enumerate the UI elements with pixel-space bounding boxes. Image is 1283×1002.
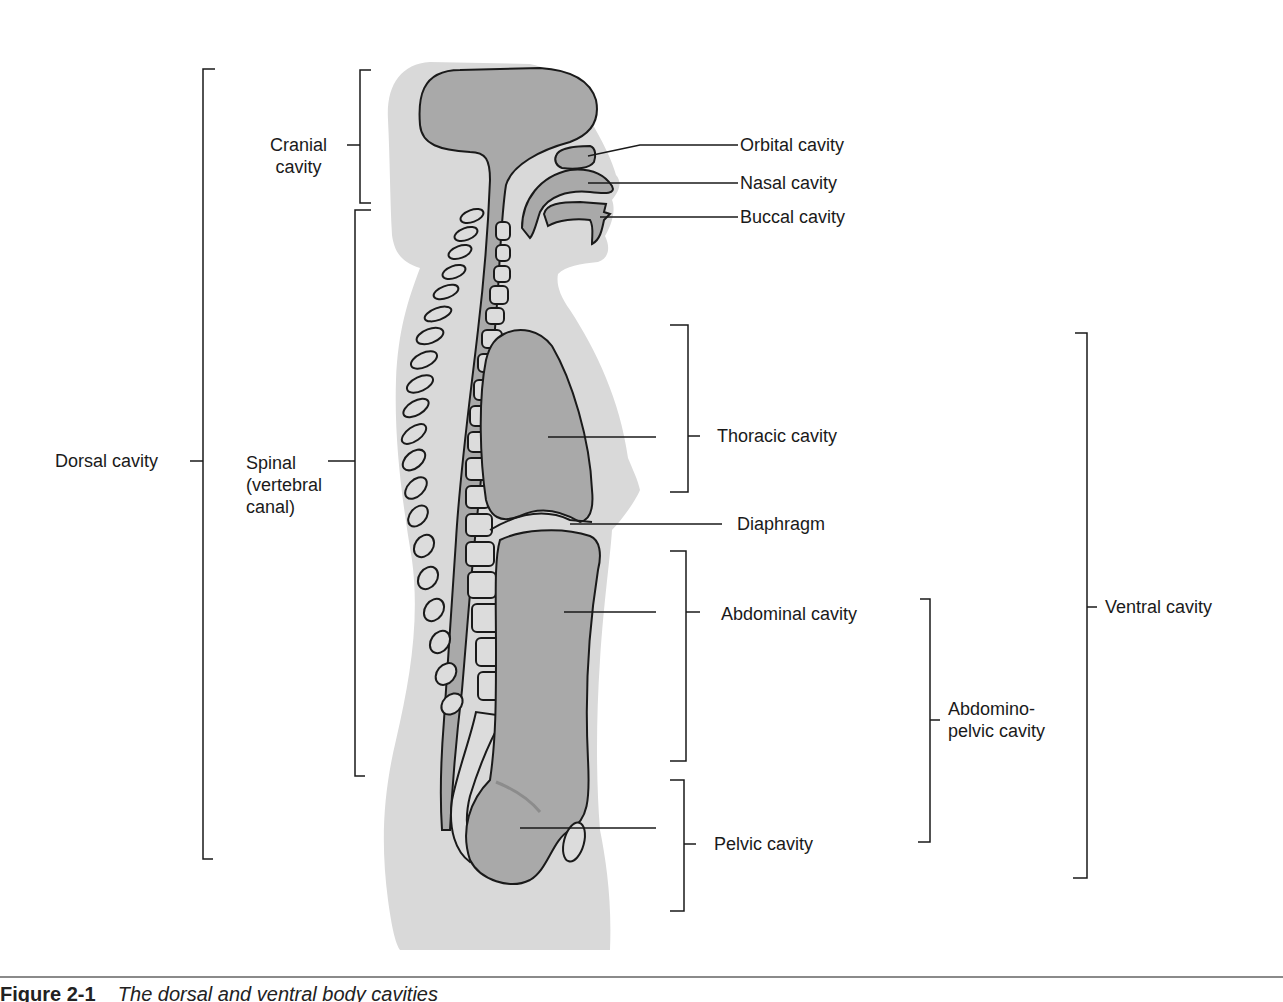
label-pelvic-cavity: Pelvic cavity bbox=[714, 833, 813, 855]
spinal-bracket bbox=[355, 210, 371, 776]
cranial-bracket bbox=[360, 70, 371, 203]
label-buccal-cavity: Buccal cavity bbox=[740, 206, 845, 228]
label-ventral-cavity: Ventral cavity bbox=[1105, 596, 1212, 618]
label-cranial-cavity: Cranial cavity bbox=[270, 134, 327, 178]
label-nasal-cavity: Nasal cavity bbox=[740, 172, 837, 194]
label-diaphragm: Diaphragm bbox=[737, 513, 825, 535]
label-spinal-canal: Spinal (vertebral canal) bbox=[246, 452, 322, 518]
brackets bbox=[190, 69, 1097, 911]
caption-text: The dorsal and ventral body cavities bbox=[118, 983, 438, 1002]
dorsal-bracket bbox=[203, 69, 215, 859]
thoracic-bracket bbox=[670, 325, 688, 492]
label-abdominopelvic-cavity: Abdomino- pelvic cavity bbox=[948, 698, 1045, 742]
label-orbital-cavity: Orbital cavity bbox=[740, 134, 844, 156]
caption-divider bbox=[0, 976, 1283, 978]
pelvic-bracket bbox=[670, 780, 684, 911]
label-thoracic-cavity: Thoracic cavity bbox=[717, 425, 837, 447]
abdominal-bracket bbox=[670, 551, 686, 761]
label-dorsal-cavity: Dorsal cavity bbox=[55, 450, 158, 472]
label-abdominal-cavity: Abdominal cavity bbox=[721, 603, 857, 625]
abdominopelvic-bracket bbox=[918, 599, 930, 842]
figure-caption: Figure 2-1 The dorsal and ventral body c… bbox=[0, 982, 1283, 1002]
orbital-cavity-shape bbox=[555, 146, 595, 169]
ventral-bracket bbox=[1073, 333, 1087, 878]
caption-number: Figure 2-1 bbox=[0, 983, 96, 1002]
